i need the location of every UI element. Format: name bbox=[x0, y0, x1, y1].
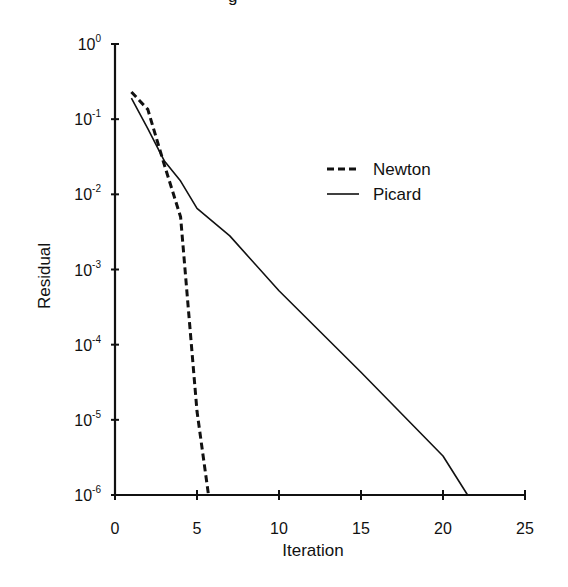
series-newton bbox=[131, 92, 208, 495]
legend: Newton Picard bbox=[327, 160, 431, 204]
legend-newton-label: Newton bbox=[373, 160, 431, 179]
x-tick-label: 25 bbox=[516, 520, 534, 537]
y-tick-label: 100 bbox=[78, 33, 102, 53]
x-tick-label: 0 bbox=[111, 520, 120, 537]
plot-series bbox=[131, 92, 467, 495]
x-tick-label: 15 bbox=[352, 520, 370, 537]
x-tick-label: 20 bbox=[434, 520, 452, 537]
legend-picard-label: Picard bbox=[373, 185, 421, 204]
y-tick-label: 10-1 bbox=[74, 108, 101, 128]
x-tick-label: 10 bbox=[270, 520, 288, 537]
y-tick-label: 10-2 bbox=[74, 183, 101, 203]
x-axis-title: Iteration bbox=[282, 541, 343, 560]
y-tick-label: 10-3 bbox=[74, 259, 101, 279]
series-picard bbox=[131, 98, 467, 495]
chart-title-fragment: g bbox=[228, 0, 237, 6]
y-axis-title: Residual bbox=[35, 243, 54, 309]
y-tick-label: 10-5 bbox=[74, 409, 101, 429]
y-tick-label: 10-4 bbox=[74, 334, 101, 354]
y-tick-label: 10-6 bbox=[74, 484, 101, 504]
x-tick-label: 5 bbox=[193, 520, 202, 537]
x-axis: 0510152025 bbox=[111, 490, 534, 537]
y-axis: 10010-110-210-310-410-510-6 bbox=[74, 33, 119, 504]
residual-chart: g 10010-110-210-310-410-510-6 0510152025… bbox=[0, 0, 568, 587]
